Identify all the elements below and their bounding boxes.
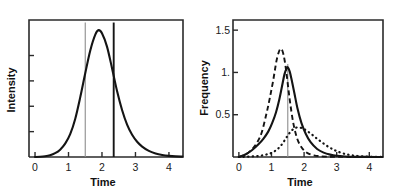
chart-panel-right: 0.51.1.5 01234 Time Frequency (197, 0, 395, 191)
x-tick-label: 0 (32, 161, 38, 173)
left-x-tick-labels: 01234 (32, 161, 172, 173)
x-tick-label: 3 (334, 161, 340, 173)
figure-container: 01234 Time Intensity 0.51.1.5 01234 Time… (0, 0, 395, 191)
x-tick-label: 3 (133, 161, 139, 173)
y-tick-label: 1. (221, 66, 230, 78)
x-tick-label: 2 (99, 161, 105, 173)
right-y-tick-labels: 0.51.1.5 (215, 24, 230, 121)
x-tick-label: 4 (166, 161, 172, 173)
x-tick-label: 0 (236, 161, 242, 173)
right-solid-curve (239, 67, 382, 157)
x-tick-label: 2 (301, 161, 307, 173)
left-y-axis-title: Intensity (5, 67, 17, 113)
left-x-axis-title: Time (90, 176, 115, 188)
y-tick-label: 1.5 (215, 24, 230, 36)
right-y-axis-title: Frequency (198, 59, 210, 116)
chart-panel-left: 01234 Time Intensity (0, 0, 198, 191)
right-chart-svg: 0.51.1.5 01234 Time Frequency (197, 0, 395, 191)
x-tick-label: 1 (66, 161, 72, 173)
left-chart-svg: 01234 Time Intensity (0, 0, 198, 191)
x-tick-label: 4 (366, 161, 372, 173)
y-tick-label: 0.5 (215, 108, 230, 120)
right-x-axis-title: Time (287, 176, 312, 188)
right-x-tick-labels: 01234 (236, 161, 372, 173)
left-vertical-markers (85, 23, 113, 157)
left-intensity-curve (35, 30, 182, 157)
x-tick-label: 1 (269, 161, 275, 173)
